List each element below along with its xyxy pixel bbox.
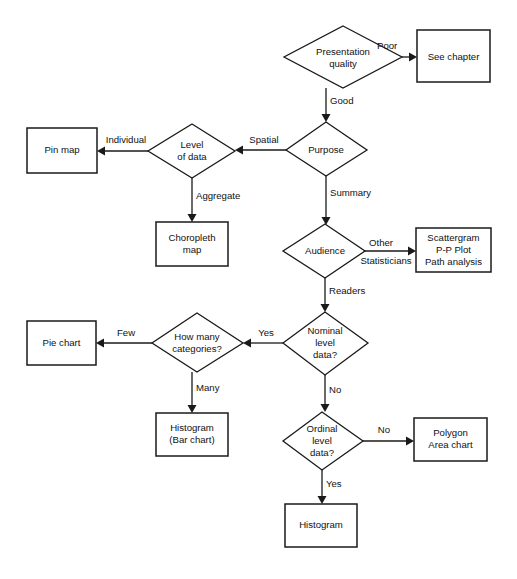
edge-label-purpose-summary: Summary — [330, 187, 371, 198]
edge-label-audience-readers: Readers — [329, 285, 365, 296]
node-pin-map-line1: Pin map — [44, 144, 79, 155]
node-level-of-data-line2: of data — [177, 151, 207, 162]
node-nominal-level-data-line3: data? — [313, 349, 337, 360]
node-scattergram[interactable]: Scattergram P-P Plot Path analysis — [416, 228, 491, 272]
edge-quality-poor — [402, 53, 417, 62]
node-choropleth-map[interactable]: Choropleth map — [156, 222, 228, 266]
node-see-chapter-line1: See chapter — [428, 51, 481, 62]
node-pie-chart[interactable]: Pie chart — [27, 321, 96, 365]
node-level-of-data[interactable]: Level of data — [148, 124, 235, 178]
edge-label-categories-few: Few — [117, 327, 135, 338]
node-presentation-quality-line1: Presentation — [316, 46, 370, 57]
node-ordinal-level-data-line2: level — [312, 435, 332, 446]
node-scattergram-line3: Path analysis — [425, 256, 482, 267]
node-choropleth-map-line2: map — [183, 244, 202, 255]
edge-label-audience-statisticians: Statisticians — [360, 255, 411, 266]
node-scattergram-line2: P-P Plot — [436, 244, 471, 255]
flowchart-canvas: Presentation quality See chapter Purpose… — [0, 0, 517, 579]
node-audience-line1: Audience — [305, 245, 345, 256]
edge-label-ordinal-no: No — [378, 424, 390, 435]
node-see-chapter[interactable]: See chapter — [417, 30, 490, 82]
node-level-of-data-line1: Level — [181, 139, 204, 150]
node-nominal-level-data[interactable]: Nominal level data? — [283, 312, 368, 375]
edge-label-ordinal-yes: Yes — [326, 478, 342, 489]
node-audience[interactable]: Audience — [283, 224, 365, 278]
node-polygon-area-chart[interactable]: Polygon Area chart — [414, 418, 487, 461]
node-how-many-categories-line1: How many — [174, 331, 220, 342]
node-ordinal-level-data[interactable]: Ordinal level data? — [283, 412, 363, 470]
edge-purpose-summary — [322, 176, 331, 225]
flowchart-diagram: Presentation quality See chapter Purpose… — [0, 0, 517, 579]
node-pie-chart-line1: Pie chart — [43, 337, 81, 348]
edge-purpose-spatial — [235, 146, 286, 155]
edge-label-level-individual: Individual — [106, 134, 147, 145]
node-pin-map[interactable]: Pin map — [27, 128, 97, 173]
edge-label-nominal-no: No — [329, 384, 341, 395]
edge-nominal-yes — [243, 339, 283, 348]
node-how-many-categories-line2: categories? — [172, 343, 222, 354]
node-histogram[interactable]: Histogram — [285, 504, 357, 547]
node-ordinal-level-data-line3: data? — [310, 447, 334, 458]
node-how-many-categories[interactable]: How many categories? — [152, 313, 243, 372]
node-histogram-bar-chart-line2: (Bar chart) — [169, 434, 214, 445]
edge-label-nominal-yes: Yes — [258, 327, 274, 338]
node-purpose-line1: Purpose — [308, 144, 344, 155]
edge-ordinal-no — [363, 437, 414, 446]
edge-level-individual — [97, 147, 148, 156]
node-histogram-bar-chart-line1: Histogram — [170, 422, 214, 433]
node-presentation-quality[interactable]: Presentation quality — [284, 26, 402, 88]
node-choropleth-map-line1: Choropleth — [169, 232, 216, 243]
edge-label-quality-good: Good — [330, 95, 353, 106]
node-nominal-level-data-line2: level — [315, 337, 335, 348]
node-presentation-quality-line2: quality — [329, 58, 357, 69]
edge-label-purpose-spatial: Spatial — [249, 134, 278, 145]
edge-label-quality-poor: Poor — [377, 40, 398, 51]
node-polygon-area-chart-line2: Area chart — [428, 439, 473, 450]
node-ordinal-level-data-line1: Ordinal — [307, 423, 338, 434]
node-polygon-area-chart-line1: Polygon — [433, 427, 468, 438]
node-scattergram-line1: Scattergram — [427, 232, 479, 243]
edge-label-categories-many: Many — [196, 382, 220, 393]
edge-label-audience-other: Other — [369, 237, 394, 248]
node-purpose[interactable]: Purpose — [286, 122, 367, 176]
edge-label-level-aggregate: Aggregate — [196, 190, 240, 201]
node-histogram-line1: Histogram — [299, 519, 343, 530]
node-nominal-level-data-line1: Nominal — [307, 325, 342, 336]
node-histogram-bar-chart[interactable]: Histogram (Bar chart) — [156, 413, 228, 456]
edge-categories-few — [96, 339, 152, 348]
